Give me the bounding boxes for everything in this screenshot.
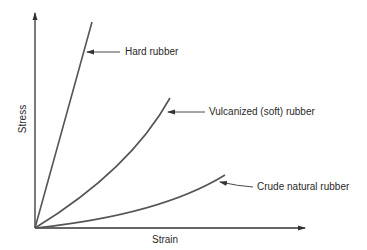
hard-rubber-label: Hard rubber — [125, 47, 178, 57]
vulcanized-rubber-label: Vulcanized (soft) rubber — [209, 107, 315, 117]
y-axis-label: Stress — [18, 103, 28, 135]
hard-rubber-curve — [35, 22, 92, 228]
vulcanized-rubber-curve — [35, 98, 170, 228]
crude-rubber-label: Crude natural rubber — [257, 182, 349, 192]
crude-rubber-curve — [35, 175, 225, 228]
x-axis-label: Strain — [152, 235, 178, 245]
crude-leader-arrow — [220, 182, 253, 187]
stress-strain-diagram — [0, 0, 367, 250]
